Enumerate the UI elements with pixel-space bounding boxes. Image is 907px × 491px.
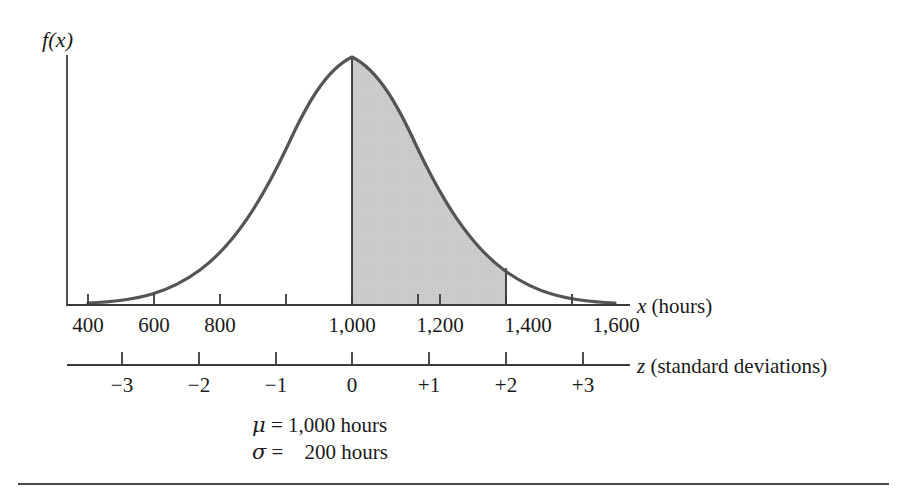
z-axis-unit: (standard deviations)	[645, 354, 827, 378]
x-tick-label: 600	[138, 315, 170, 336]
y-axis-label: f(x)	[42, 29, 73, 51]
parameter-annotations: μ = 1,000 hours σ = 200 hours	[252, 412, 388, 466]
x-axis-name: x (hours)	[637, 296, 712, 317]
std-dev-annotation: σ = 200 hours	[252, 439, 388, 466]
x-tick-label: 400	[72, 315, 104, 336]
mean-annotation: μ = 1,000 hours	[252, 412, 388, 439]
x-tick-label: 1,400	[504, 315, 551, 336]
x-tick-label: 1,000	[328, 315, 375, 336]
z-axis-ticks	[122, 352, 583, 365]
z-tick-label: 0	[347, 375, 358, 396]
x-tick-label: 1,200	[416, 315, 463, 336]
z-tick-label: +2	[495, 375, 517, 396]
z-axis-variable: z	[637, 354, 645, 378]
distribution-plot	[0, 0, 907, 491]
sigma-symbol: σ	[252, 440, 266, 464]
z-tick-label: +1	[418, 375, 440, 396]
mu-value: = 1,000 hours	[266, 413, 388, 437]
footer-divider	[18, 483, 889, 485]
z-tick-label: +3	[572, 375, 594, 396]
mu-symbol: μ	[252, 413, 266, 437]
z-tick-label: −1	[265, 375, 287, 396]
shaded-area-region	[352, 50, 506, 305]
z-tick-label: −2	[188, 375, 210, 396]
x-tick-label: 800	[204, 315, 236, 336]
sigma-value: = 200 hours	[266, 440, 388, 464]
normal-distribution-figure: f(x) x (hours) z (standard deviations) 4…	[0, 0, 907, 491]
x-axis-unit: (hours)	[646, 294, 712, 318]
z-tick-label: −3	[111, 375, 133, 396]
z-axis-name: z (standard deviations)	[637, 356, 827, 377]
x-tick-label: 1,600	[592, 315, 639, 336]
